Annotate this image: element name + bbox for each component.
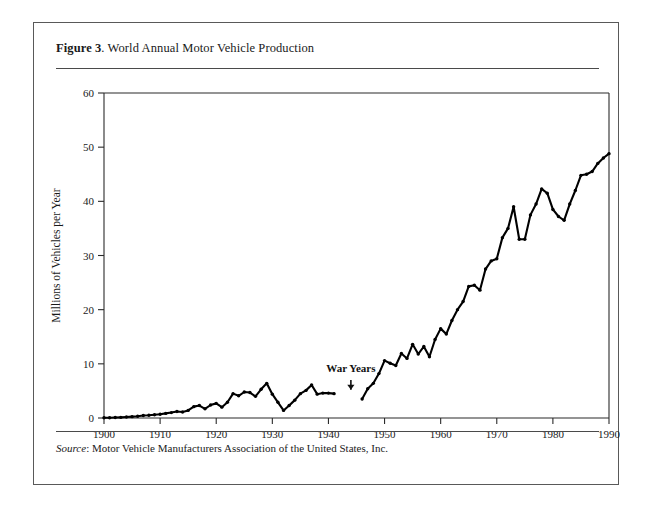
source-label: Source xyxy=(56,442,86,454)
series-data-point xyxy=(243,390,246,393)
series-data-point xyxy=(596,162,599,165)
x-tick-label: 1920 xyxy=(205,428,228,440)
series-data-point xyxy=(136,415,139,418)
y-axis-title: Millions of Vehicles per Year xyxy=(50,188,63,322)
series-data-point xyxy=(411,343,414,346)
series-data-point xyxy=(512,205,515,208)
x-tick-label: 1900 xyxy=(93,428,116,440)
series-data-point xyxy=(175,410,178,413)
series-data-point xyxy=(383,359,386,362)
series-data-point xyxy=(327,391,330,394)
series-data-point xyxy=(360,397,363,400)
series-data-point xyxy=(248,391,251,394)
series-data-point xyxy=(254,395,257,398)
y-tick-label: 10 xyxy=(83,358,95,370)
series-data-point xyxy=(568,202,571,205)
series-data-point xyxy=(276,401,279,404)
series-line xyxy=(362,154,609,399)
series-data-point xyxy=(461,300,464,303)
series-data-point xyxy=(237,394,240,397)
x-tick-label: 1910 xyxy=(149,428,172,440)
series-data-point xyxy=(439,327,442,330)
series-data-point xyxy=(209,403,212,406)
series-data-point xyxy=(450,319,453,322)
annotation-arrow-head xyxy=(347,385,354,390)
series-data-point xyxy=(299,392,302,395)
x-tick-label: 1970 xyxy=(486,428,509,440)
series-data-point xyxy=(220,405,223,408)
x-tick-label: 1940 xyxy=(317,428,340,440)
series-data-point xyxy=(400,352,403,355)
series-data-point xyxy=(557,215,560,218)
x-tick-label: 1990 xyxy=(598,428,620,440)
series-data-point xyxy=(282,409,285,412)
series-data-point xyxy=(198,404,201,407)
chart-plot-area: 0102030405060190019101920193019401950196… xyxy=(34,23,620,486)
series-data-point xyxy=(316,392,319,395)
series-data-point xyxy=(181,410,184,413)
series-data-point xyxy=(484,267,487,270)
series-data-point xyxy=(534,202,537,205)
series-data-point xyxy=(546,192,549,195)
figure-source: Source: Motor Vehicle Manufacturers Asso… xyxy=(56,442,388,454)
series-data-point xyxy=(321,391,324,394)
series-data-point xyxy=(108,416,111,419)
series-data-point xyxy=(310,383,313,386)
figure-card: Figure 3. World Annual Motor Vehicle Pro… xyxy=(33,22,619,485)
series-data-point xyxy=(158,413,161,416)
y-tick-label: 20 xyxy=(83,304,95,316)
series-data-point xyxy=(590,170,593,173)
series-data-point xyxy=(226,401,229,404)
series-data-point xyxy=(102,416,105,419)
series-data-point xyxy=(551,208,554,211)
x-tick-label: 1960 xyxy=(430,428,453,440)
series-data-point xyxy=(114,416,117,419)
series-line xyxy=(104,383,334,417)
series-data-point xyxy=(366,387,369,390)
x-tick-label: 1980 xyxy=(542,428,565,440)
series-data-point xyxy=(467,285,470,288)
series-data-point xyxy=(607,152,610,155)
series-data-point xyxy=(125,415,128,418)
series-data-point xyxy=(422,345,425,348)
y-tick-label: 0 xyxy=(89,412,95,424)
series-data-point xyxy=(495,257,498,260)
series-data-point xyxy=(293,398,296,401)
series-data-point xyxy=(147,414,150,417)
series-data-point xyxy=(562,219,565,222)
x-tick-label: 1950 xyxy=(374,428,397,440)
series-data-point xyxy=(456,308,459,311)
series-data-point xyxy=(405,357,408,360)
series-data-point xyxy=(142,414,145,417)
y-tick-label: 60 xyxy=(83,87,95,99)
series-data-point xyxy=(153,413,156,416)
source-divider xyxy=(56,431,599,432)
series-data-point xyxy=(529,213,532,216)
series-data-point xyxy=(579,174,582,177)
series-data-point xyxy=(428,355,431,358)
series-data-point xyxy=(271,392,274,395)
series-data-point xyxy=(501,236,504,239)
series-data-point xyxy=(332,392,335,395)
series-data-point xyxy=(231,392,234,395)
source-text: : Motor Vehicle Manufacturers Associatio… xyxy=(86,442,388,454)
series-data-point xyxy=(119,416,122,419)
series-data-point xyxy=(215,402,218,405)
series-data-point xyxy=(265,382,268,385)
series-data-point xyxy=(445,332,448,335)
annotation-label-war-years: War Years xyxy=(326,362,376,374)
series-data-point xyxy=(170,411,173,414)
series-data-point xyxy=(523,238,526,241)
series-data-point xyxy=(130,415,133,418)
series-data-point xyxy=(574,189,577,192)
series-data-point xyxy=(259,388,262,391)
series-data-point xyxy=(489,259,492,262)
series-data-point xyxy=(186,409,189,412)
series-data-point xyxy=(585,173,588,176)
series-data-point xyxy=(287,404,290,407)
y-tick-label: 50 xyxy=(83,141,95,153)
series-data-point xyxy=(394,364,397,367)
series-data-point xyxy=(518,238,521,241)
series-data-point xyxy=(473,284,476,287)
y-tick-label: 40 xyxy=(83,195,95,207)
